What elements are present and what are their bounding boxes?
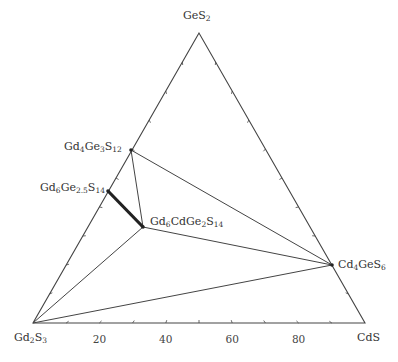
tie-line <box>143 227 332 265</box>
tick-mark <box>279 178 282 180</box>
phase-label-gd6cdge2s14: Gd6CdGe2S14 <box>150 216 223 227</box>
phase-point <box>129 148 133 152</box>
vertex-label-cds: CdS <box>357 332 380 343</box>
phase-point <box>141 225 145 229</box>
phase-point <box>330 263 334 267</box>
tick-mark <box>296 207 299 208</box>
tie-line <box>33 265 332 323</box>
tick-mark <box>263 149 265 151</box>
axis-tick-label: 20 <box>93 333 106 345</box>
phase-label-gd6ge25s14: Gd6Ge2.5S14 <box>40 182 105 193</box>
vertex-label-ges2: GeS2 <box>183 10 211 21</box>
vertex-label-gd2s3: Gd2S3 <box>14 332 47 343</box>
axis-tick-label: 60 <box>226 333 239 345</box>
ternary-diagram <box>0 0 398 362</box>
axis-tick-label: 40 <box>159 333 172 345</box>
tick-mark <box>248 120 249 123</box>
tie-line <box>131 150 332 265</box>
tie-line <box>33 227 143 323</box>
phase-label-gd4ge3s12: Gd4Ge3S12 <box>64 141 122 152</box>
tick-mark <box>99 207 102 208</box>
tick-mark <box>231 91 232 94</box>
tick-mark <box>116 178 119 180</box>
axis-tick-label: 80 <box>292 333 305 345</box>
phase-point <box>106 189 110 193</box>
tick-mark <box>166 91 167 94</box>
tick-mark <box>149 120 150 123</box>
tie-lines <box>33 150 332 323</box>
phase-label-cd4ges6: Cd4GeS6 <box>338 259 386 270</box>
